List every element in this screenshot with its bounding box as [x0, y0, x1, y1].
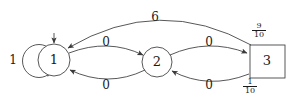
node-2-shape	[142, 47, 172, 77]
edge-3-to-2-path	[172, 71, 249, 81]
edge-1-to-2-path	[69, 46, 143, 55]
node-3-shape	[250, 45, 285, 78]
edge-2-to-3-path	[170, 46, 247, 55]
edge-3-to-1-arc-path	[68, 20, 251, 48]
edge-2-to-1-path	[70, 70, 145, 79]
node-1-shape	[38, 44, 70, 76]
state-transition-diagram: 1 2 3 1 6 0 0 0 0 9 10 1 10	[0, 0, 290, 99]
diagram-canvas	[0, 0, 290, 99]
